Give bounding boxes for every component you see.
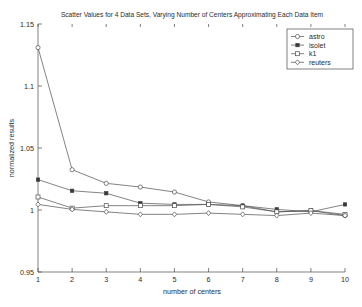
data-point-marker (138, 204, 142, 208)
x-tick-label: 3 (104, 275, 108, 284)
data-point-marker (207, 202, 211, 206)
figure-container: Scatter Values for 4 Data Sets, Varying … (0, 0, 362, 307)
y-tick-label: 0.95 (20, 268, 34, 277)
series-line (38, 204, 345, 215)
x-tick-label: 10 (341, 275, 349, 284)
data-point-marker (343, 203, 346, 206)
x-tick-label: 7 (241, 275, 245, 284)
scatter-line-chart: Scatter Values for 4 Data Sets, Varying … (0, 0, 362, 307)
data-point-marker (104, 181, 108, 185)
series-k1 (36, 195, 347, 216)
legend-item-reuters[interactable]: reuters (291, 59, 331, 66)
legend-label: astro (309, 33, 325, 40)
x-tick-label: 1 (36, 275, 40, 284)
data-point-marker (295, 34, 299, 38)
x-axis-label: number of centers (163, 287, 221, 296)
x-tick-label: 9 (309, 275, 313, 284)
y-axis-label: normalized results (7, 118, 16, 177)
data-point-marker (138, 212, 142, 217)
x-axis-ticks: 12345678910 (36, 268, 349, 284)
data-point-marker (241, 205, 245, 209)
y-tick-label: 1.1 (24, 82, 34, 91)
data-series-layer (36, 45, 347, 218)
chart-title: Scatter Values for 4 Data Sets, Varying … (61, 11, 324, 19)
data-point-marker (36, 45, 40, 49)
data-point-marker (70, 189, 73, 192)
x-tick-label: 5 (172, 275, 176, 284)
data-point-marker (36, 178, 39, 181)
data-point-marker (104, 209, 108, 214)
data-point-marker (104, 204, 108, 208)
legend-label: reuters (309, 59, 331, 66)
y-tick-label: 1 (30, 206, 34, 215)
series-line (38, 197, 345, 214)
data-point-marker (240, 212, 244, 217)
y-axis-ticks: 0.9511.051.11.15 (20, 20, 42, 277)
series-line (38, 48, 345, 216)
y-tick-label: 1.05 (20, 144, 34, 153)
y-tick-label: 1.15 (20, 20, 34, 29)
series-isolet (36, 178, 346, 214)
data-point-marker (296, 43, 299, 46)
x-tick-label: 2 (70, 275, 74, 284)
data-point-marker (70, 168, 74, 172)
data-point-marker (206, 211, 210, 216)
data-point-marker (36, 202, 40, 207)
legend-label: k1 (309, 50, 317, 57)
data-point-marker (138, 185, 142, 189)
top-tick-marks (38, 24, 345, 27)
data-point-marker (36, 195, 40, 199)
data-point-marker (105, 192, 108, 195)
data-point-marker (172, 190, 176, 194)
x-tick-label: 6 (207, 275, 211, 284)
data-point-marker (296, 52, 300, 56)
chart-legend[interactable]: astroisoletk1reuters (287, 29, 353, 69)
legend-label: isolet (309, 42, 325, 49)
x-tick-label: 4 (138, 275, 142, 284)
data-point-marker (172, 204, 176, 208)
x-tick-label: 8 (275, 275, 279, 284)
data-point-marker (172, 212, 176, 217)
